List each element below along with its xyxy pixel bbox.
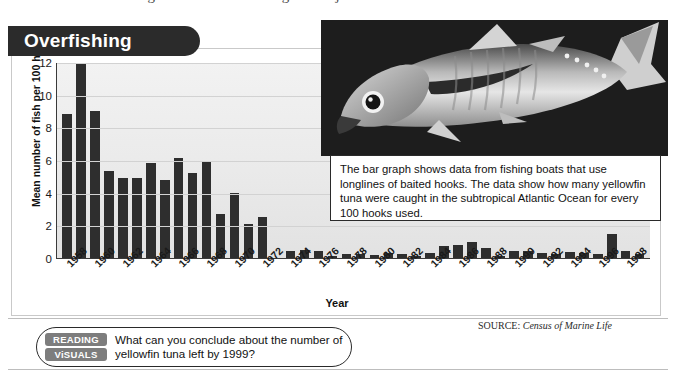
- source-prefix: SOURCE:: [478, 320, 520, 331]
- bar-1972: [258, 217, 267, 258]
- source-credit: SOURCE: Census of Marine Life: [478, 320, 612, 331]
- section-banner: Overfishing: [8, 26, 200, 56]
- badge-line-visuals: ViSUALS: [45, 348, 107, 361]
- question-text: What can you conclude about the number o…: [115, 333, 343, 362]
- reading-visuals-question[interactable]: READING ViSUALS What can you conclude ab…: [36, 327, 352, 367]
- y-tick-10: 10: [39, 90, 52, 102]
- source-name: Census of Marine Life: [523, 320, 612, 331]
- page-text-line: sing Problem: Overfishing is a major thr…: [130, 0, 533, 4]
- y-tick-0: 0: [46, 253, 52, 265]
- y-tick-6: 6: [46, 155, 52, 167]
- y-axis: 024681012: [26, 63, 52, 259]
- bar-1964: [146, 163, 155, 258]
- gridline-2: [57, 226, 650, 227]
- badge-line-reading: READING: [45, 333, 107, 346]
- tuna-illustration: [321, 20, 668, 156]
- bar-1962: [118, 178, 127, 258]
- bar-1966: [174, 158, 183, 258]
- figure-panel: Mean number of fish per 100 hooks 024681…: [8, 22, 668, 370]
- callout-box: The bar graph shows data from fishing bo…: [330, 155, 661, 221]
- section-title: Overfishing: [24, 30, 132, 52]
- y-tick-12: 12: [39, 57, 52, 69]
- divider-bottom: [8, 369, 668, 370]
- bar-1960: [90, 111, 99, 258]
- x-axis-label: Year: [12, 297, 662, 309]
- bar-1970: [230, 193, 239, 258]
- divider-top: [8, 318, 668, 319]
- y-tick-2: 2: [46, 220, 52, 232]
- bar-1958: [62, 114, 71, 258]
- y-tick-4: 4: [46, 188, 52, 200]
- yellowfin-tuna-photo: [321, 20, 668, 156]
- callout-text: The bar graph shows data from fishing bo…: [340, 162, 651, 220]
- bar-1968: [202, 162, 211, 258]
- y-tick-8: 8: [46, 122, 52, 134]
- reading-visuals-badge: READING ViSUALS: [45, 333, 107, 361]
- page-text-bleed: sing Problem: Overfishing is a major thr…: [0, 0, 675, 12]
